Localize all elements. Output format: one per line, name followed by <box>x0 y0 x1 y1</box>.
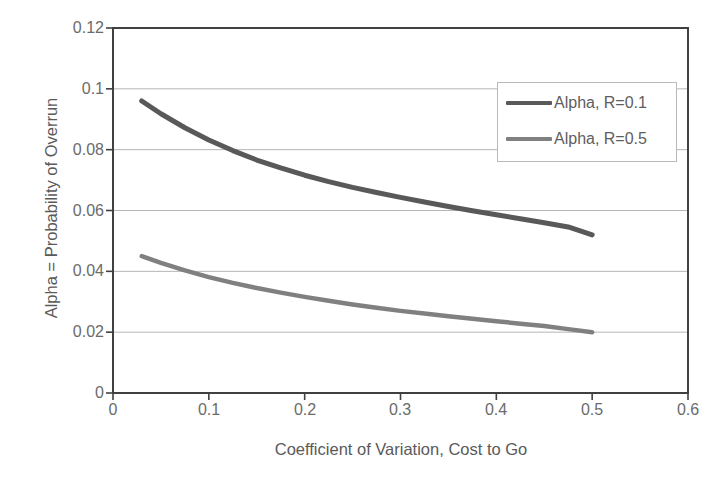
legend-swatch-icon <box>506 137 552 141</box>
legend-label: Alpha, R=0.5 <box>554 130 647 148</box>
legend-swatch-icon <box>506 101 552 105</box>
plot-area <box>0 0 724 496</box>
legend-item: Alpha, R=0.1 <box>506 92 647 114</box>
legend-label: Alpha, R=0.1 <box>554 94 647 112</box>
series-line <box>142 256 592 332</box>
legend: Alpha, R=0.1 Alpha, R=0.5 <box>497 82 677 162</box>
legend-item: Alpha, R=0.5 <box>506 128 647 150</box>
chart-figure: Alpha = Probability of Overrun 0.12 0.1 … <box>0 0 724 496</box>
